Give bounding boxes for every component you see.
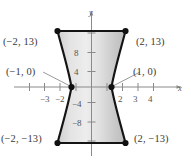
point-neg1-0 <box>68 84 74 90</box>
point-label-mid-left: (−1, 0) <box>6 67 35 78</box>
point-label-bottom-left: (−2, −13) <box>1 134 42 145</box>
point-2-neg13 <box>122 140 128 146</box>
x-tick-label-2: 2 <box>118 95 123 104</box>
x-tick-label-4: 4 <box>148 95 153 104</box>
y-tick-label-neg4: −4 <box>72 100 82 109</box>
graph-figure: (−2, 13) (2, 13) (−1, 0) (1, 0) (−2, −13… <box>0 0 191 163</box>
y-axis-label: y <box>89 8 93 17</box>
x-tick-label-3: 3 <box>133 95 138 104</box>
point-label-top-right: (2, 13) <box>136 37 165 48</box>
point-label-bottom-right: (2, −13) <box>134 134 169 145</box>
point-label-top-left: (−2, 13) <box>3 37 38 48</box>
y-tick-label-4: 4 <box>74 68 79 77</box>
y-tick-label-8: 8 <box>74 49 79 58</box>
point-neg2-13 <box>54 28 60 34</box>
point-neg2-neg13 <box>54 140 60 146</box>
y-tick-label-neg8: −8 <box>72 119 82 128</box>
x-tick-label-neg3: −3 <box>40 95 50 104</box>
x-axis-label: x <box>178 84 182 93</box>
point-1-0 <box>108 84 114 90</box>
point-label-mid-right: (1, 0) <box>133 67 156 78</box>
point-2-13 <box>122 28 128 34</box>
x-tick-label-neg2: −2 <box>55 95 65 104</box>
